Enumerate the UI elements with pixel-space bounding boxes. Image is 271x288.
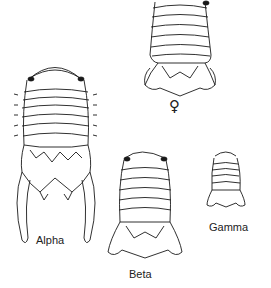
female-isopod-drawing	[145, 1, 216, 96]
isopod-figure: ♀ Alpha Beta Gamma	[0, 0, 271, 288]
gamma-isopod-drawing	[207, 152, 245, 207]
female-symbol: ♀	[169, 97, 180, 115]
beta-isopod-drawing	[108, 152, 182, 258]
beta-label: Beta	[129, 268, 152, 280]
gamma-label: Gamma	[209, 221, 248, 233]
alpha-isopod-drawing	[14, 68, 97, 243]
alpha-label: Alpha	[36, 234, 64, 246]
